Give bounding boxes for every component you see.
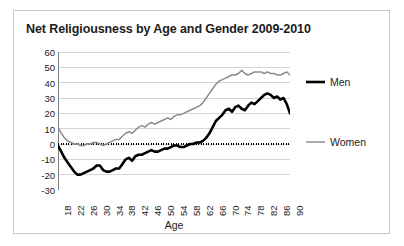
- y-axis: 6050403020100-10-20-30: [22, 52, 55, 190]
- x-axis: 18222630343842465054586266707478828690: [58, 192, 290, 218]
- y-axis-tick-label: 10: [29, 123, 55, 134]
- legend-line-swatch: [306, 78, 325, 86]
- y-axis-tick-label: -10: [29, 154, 55, 165]
- x-axis-tick-label: 22: [75, 205, 86, 216]
- chart-legend: MenWomen: [306, 52, 384, 190]
- y-axis-tick-label: 60: [29, 47, 55, 58]
- y-axis-tick-label: 50: [29, 62, 55, 73]
- x-axis-tick-label: 34: [114, 205, 125, 216]
- x-axis-tick-label: 66: [217, 205, 228, 216]
- data-series-men: [58, 93, 290, 174]
- x-axis-tick-label: 90: [294, 205, 305, 216]
- x-axis-tick-label: 62: [204, 205, 215, 216]
- y-axis-tick-label: 20: [29, 108, 55, 119]
- x-axis-tick-label: 26: [88, 205, 99, 216]
- x-axis-tick-label: 78: [255, 205, 266, 216]
- x-axis-tick-label: 30: [101, 205, 112, 216]
- chart-title: Net Religiousness by Age and Gender 2009…: [26, 22, 311, 36]
- plot-svg: [58, 52, 290, 190]
- x-axis-tick-label: 18: [62, 205, 73, 216]
- legend-line-swatch: [306, 138, 325, 146]
- x-axis-title: Age: [58, 219, 290, 231]
- x-axis-tick-label: 50: [165, 205, 176, 216]
- y-axis-tick-label: 30: [29, 93, 55, 104]
- y-axis-tick-label: -20: [29, 169, 55, 180]
- legend-label: Men: [330, 76, 350, 88]
- x-axis-tick-label: 58: [191, 205, 202, 216]
- x-axis-tick-label: 42: [139, 205, 150, 216]
- data-series-women: [58, 70, 290, 145]
- screenshot-root: Net Religiousness by Age and Gender 2009…: [0, 0, 404, 246]
- x-axis-tick-label: 54: [178, 205, 189, 216]
- x-axis-tick-label: 82: [268, 205, 279, 216]
- legend-item-men[interactable]: Men: [306, 76, 350, 88]
- y-axis-tick-label: 40: [29, 77, 55, 88]
- x-axis-tick-label: 38: [126, 205, 137, 216]
- y-axis-tick-label: -30: [29, 185, 55, 196]
- plot-area: [58, 52, 290, 190]
- x-axis-tick-label: 86: [281, 205, 292, 216]
- y-axis-tick-label: 0: [29, 139, 55, 150]
- x-axis-tick-label: 46: [152, 205, 163, 216]
- legend-label: Women: [330, 136, 366, 148]
- x-axis-tick-label: 74: [242, 205, 253, 216]
- x-axis-tick-label: 70: [230, 205, 241, 216]
- chart-container: Net Religiousness by Age and Gender 2009…: [13, 10, 390, 234]
- legend-item-women[interactable]: Women: [306, 136, 366, 148]
